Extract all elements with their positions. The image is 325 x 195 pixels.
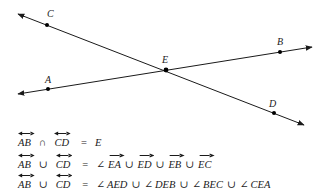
operator-text: ∪ xyxy=(156,159,165,170)
angle-symbol: ∠ xyxy=(96,178,105,190)
line-symbol-icon xyxy=(18,153,35,158)
operator: ∩ xyxy=(39,137,47,148)
label-b: B xyxy=(277,36,283,47)
line-symbol-icon xyxy=(54,131,71,136)
equation-row: AB∪CD=∠EA∪ED∪EB∪EC xyxy=(18,158,215,172)
term-text: AED xyxy=(107,179,127,190)
angle-symbol: ∠ xyxy=(96,158,105,170)
line-cd xyxy=(18,14,304,125)
term-text: CD xyxy=(56,179,71,190)
equals-sign: = xyxy=(82,179,88,190)
operator-text: ∪ xyxy=(185,159,194,170)
operator-text: ∪ xyxy=(179,179,188,190)
term-text: CD xyxy=(54,137,69,148)
ray-symbol-icon xyxy=(198,153,215,158)
term-text: DEB xyxy=(155,179,175,190)
operator-text: ∪ xyxy=(131,179,140,190)
term-text: EC xyxy=(198,159,211,170)
segment-name: CEA xyxy=(251,179,271,190)
term-text: ED xyxy=(138,159,152,170)
segment-name: DEB xyxy=(155,179,175,190)
equation-row: AB∪CD=∠AED∪∠DEB∪∠BEC∪∠CEA xyxy=(18,178,274,192)
segment-name: AB xyxy=(18,137,31,148)
segment-name: E xyxy=(95,137,101,148)
operator: ∪ xyxy=(179,178,188,190)
segment-name: EB xyxy=(168,159,181,170)
segment-name: AED xyxy=(107,179,127,190)
operator-text: ∠ xyxy=(192,179,201,190)
segment-name: AB xyxy=(18,179,31,190)
label-e: E xyxy=(161,54,168,65)
point-b xyxy=(278,50,282,54)
label-d: D xyxy=(268,98,277,109)
segment-name: EC xyxy=(198,159,211,170)
equals-sign: = xyxy=(81,137,87,148)
operator-text: ∪ xyxy=(39,179,48,190)
operator: ∪ xyxy=(156,158,165,170)
operator-text: ∠ xyxy=(240,179,249,190)
operator-text: ∪ xyxy=(227,179,236,190)
term-text: CEA xyxy=(251,179,271,190)
operator: ∪ xyxy=(185,158,194,170)
ray-symbol-icon xyxy=(108,153,125,158)
angle-symbol: ∠ xyxy=(240,178,249,190)
operator-text: ∠ xyxy=(96,159,105,170)
term-text: E xyxy=(95,137,101,148)
operator-text: ∩ xyxy=(39,137,47,148)
term-text: AB xyxy=(18,137,31,148)
point-e xyxy=(164,68,169,73)
segment-name: AB xyxy=(18,159,31,170)
ray-symbol-icon xyxy=(168,153,185,158)
operator-text: ∪ xyxy=(39,159,48,170)
operator: ∪ xyxy=(131,178,140,190)
term-text: EB xyxy=(168,159,181,170)
equation-row: AB∩CD=E xyxy=(18,137,105,151)
term-text: EA xyxy=(108,159,121,170)
term-text: BEC xyxy=(203,179,223,190)
segment-name: BEC xyxy=(203,179,223,190)
segment-name: CD xyxy=(54,137,69,148)
segment-name: CD xyxy=(56,179,71,190)
term-text: AB xyxy=(18,179,31,190)
label-a: A xyxy=(44,74,52,85)
line-symbol-icon xyxy=(56,173,73,178)
point-d xyxy=(272,111,276,115)
segment-name: ED xyxy=(138,159,152,170)
segment-name: EA xyxy=(108,159,121,170)
equals-sign: = xyxy=(82,159,88,170)
ray-symbol-icon xyxy=(138,153,155,158)
line-symbol-icon xyxy=(56,153,73,158)
geometry-diagram: C A E B D xyxy=(0,0,325,130)
point-c xyxy=(45,23,49,27)
operator-text: ∪ xyxy=(125,159,134,170)
line-symbol-icon xyxy=(18,131,35,136)
operator-text: ∠ xyxy=(96,179,105,190)
term-text: CD xyxy=(56,159,71,170)
segment-name: CD xyxy=(56,159,71,170)
point-a xyxy=(46,87,50,91)
operator: ∪ xyxy=(39,158,48,170)
operator-text: ∠ xyxy=(144,179,153,190)
label-c: C xyxy=(47,8,54,19)
operator: ∪ xyxy=(39,178,48,190)
term-text: AB xyxy=(18,159,31,170)
operator: ∪ xyxy=(227,178,236,190)
angle-symbol: ∠ xyxy=(192,178,201,190)
line-symbol-icon xyxy=(18,173,35,178)
angle-symbol: ∠ xyxy=(144,178,153,190)
operator: ∪ xyxy=(125,158,134,170)
